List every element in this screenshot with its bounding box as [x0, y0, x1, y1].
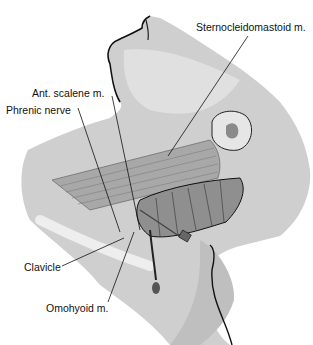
label-clavicle: Clavicle	[24, 261, 61, 273]
ear-inner	[226, 123, 238, 138]
label-ant-scalene: Ant. scalene m.	[32, 87, 104, 99]
vein-drop	[152, 282, 160, 294]
label-sternocleidomastoid: Sternocleidomastoid m.	[196, 21, 306, 33]
label-omohyoid: Omohyoid m.	[46, 302, 108, 314]
label-phrenic-nerve: Phrenic nerve	[6, 104, 71, 116]
anatomy-illustration	[0, 0, 313, 345]
